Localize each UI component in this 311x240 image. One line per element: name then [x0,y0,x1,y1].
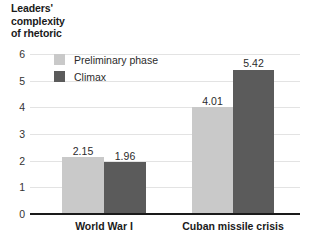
x-axis-label-cuban-missile-crisis: Cuban missile crisis [182,220,284,232]
y-tick-label: 0 [11,208,25,220]
bar-value-label: 5.42 [243,57,263,69]
y-tick-label: 4 [11,101,25,113]
chart-title: Leaders' complexity of rhetoric [11,2,141,40]
legend-swatch-icon [54,71,65,82]
y-tick-label: 1 [11,181,25,193]
y-tick-label: 6 [11,48,25,60]
legend: Preliminary phase Climax [54,52,158,86]
legend-label: Preliminary phase [74,54,158,66]
bar-value-label: 2.15 [73,145,93,157]
legend-item-climax: Climax [54,69,158,84]
x-axis-label-world-war-i: World War I [75,220,133,232]
y-tick-label: 3 [11,128,25,140]
bar-cuban-missile-crisis-preliminary-phase [192,107,233,214]
y-axis: 6 5 4 3 2 1 0 [8,0,25,240]
bar-cuban-missile-crisis-climax [233,70,274,215]
legend-item-preliminary-phase: Preliminary phase [54,52,158,67]
y-tick-label: 2 [11,155,25,167]
bar-world-war-i-preliminary-phase [62,157,104,214]
x-axis-line [30,213,300,215]
bar-world-war-i-climax [104,162,146,214]
bar-chart: Leaders' complexity of rhetoric 6 5 4 3 … [0,0,311,240]
legend-swatch-icon [54,54,65,65]
legend-label: Climax [74,71,106,83]
bar-value-label: 4.01 [202,95,222,107]
y-tick-label: 5 [11,75,25,87]
bar-value-label: 1.96 [115,150,135,162]
